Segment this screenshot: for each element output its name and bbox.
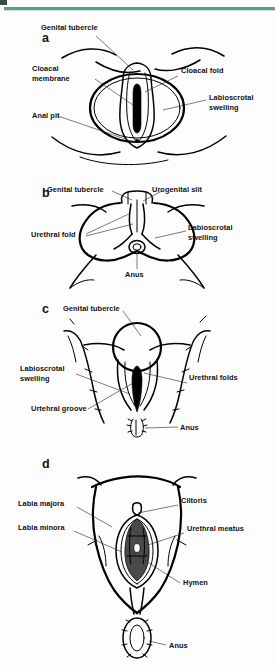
panel-d-clitoris <box>133 503 142 515</box>
panel-a-right-buttock <box>158 136 226 155</box>
panel-c-tick-r4 <box>173 409 179 410</box>
panel-b-right-foot <box>180 280 204 288</box>
panel-b-label-labioscrotal-line1: Labioscrotal <box>188 223 233 232</box>
panel-b-urethral-fold-left <box>129 204 132 234</box>
panel-d-label-labia-minora: Labia minora <box>18 523 65 532</box>
panel-c-label-anus: Anus <box>180 423 199 432</box>
panel-b-label-urogenital-slit: Urogenital slit <box>152 185 203 194</box>
panel-b-left-leg <box>70 255 96 288</box>
panel-a-label-anal-pit: Anal pit <box>32 111 60 120</box>
panel-d-anus-outer <box>123 618 151 658</box>
panel-a-right-thigh <box>172 48 224 56</box>
panel-a-cloacal-membrane-slit <box>133 84 141 133</box>
panel-b: b <box>31 185 233 288</box>
panel-d-anus-ridge-6 <box>147 630 152 631</box>
panel-b-left-foot <box>70 280 94 288</box>
panel-d-label-hymen: Hymen <box>183 578 208 587</box>
panel-c: c <box>20 302 238 437</box>
panel-d-label-labia-majora: Labia majora <box>18 499 65 508</box>
panel-c-anus-outline <box>131 419 144 437</box>
panel-d-anus-ridge-7 <box>147 644 152 645</box>
anatomical-figure: a <box>0 0 275 669</box>
panel-c-label-urethral-folds: Urethral folds <box>189 373 238 382</box>
panel-d-letter: d <box>42 457 50 471</box>
panel-a-label-cloacal-membrane-line1: Cloacal <box>32 64 59 73</box>
panel-c-label-labioscrotal-line1: Labioscrotal <box>20 364 65 373</box>
panel-a-left-buttock <box>52 137 120 155</box>
panel-c-right-wrinkle-a <box>198 336 206 362</box>
panel-d-label-clitoris: Clitoris <box>181 496 207 505</box>
panel-c-perineal-right <box>150 344 190 350</box>
panel-d: d <box>18 457 244 658</box>
panel-d-urethral-meatus <box>134 544 140 553</box>
panel-b-urethral-fold-right <box>142 204 145 234</box>
panel-a-letter: a <box>42 31 50 45</box>
panel-d-leader-clitoris <box>138 505 178 513</box>
panel-a-label-labioscrotal-line1: Labioscrotal <box>209 93 254 102</box>
panel-d-anus-ridge-2 <box>122 630 127 631</box>
panel-b-label-anus: Anus <box>125 270 144 279</box>
panel-d-anus-inner <box>130 625 144 651</box>
panel-c-letter: c <box>42 302 49 316</box>
panel-b-label-urethral-fold: Urethral fold <box>31 230 76 239</box>
panel-a-anal-pit-dot <box>135 139 139 143</box>
panel-c-leader-urethral-folds <box>144 373 187 383</box>
panel-c-tick-l4 <box>95 409 101 410</box>
panel-c-left-wrinkle-a <box>68 336 76 362</box>
panel-c-anus-ridge-4 <box>142 419 146 421</box>
panel-a-left-thigh <box>62 49 116 58</box>
panel-d-mons-pubis <box>92 476 180 487</box>
panel-c-label-urethral-groove: Urtehral groove <box>31 404 87 413</box>
panel-b-label-labioscrotal-line2: swelling <box>188 233 218 242</box>
panel-a: a <box>32 23 254 165</box>
panel-c-tick-l-top <box>70 319 74 324</box>
panel-b-right-leg <box>178 255 204 288</box>
panel-c-label-labioscrotal-line2: swelling <box>20 374 50 383</box>
panel-c-label-genital-tubercle: Genital tubercle <box>63 304 120 313</box>
panel-b-leader-urethral-fold-a <box>86 213 131 234</box>
panel-d-label-urethral-meatus: Urethral meatus <box>187 524 244 533</box>
panel-b-leader-labioscrotal <box>155 231 186 238</box>
figure-page: a <box>0 0 275 669</box>
panel-b-label-genital-tubercle: Genital tubercle <box>47 185 104 194</box>
panel-a-label-labioscrotal-line2: swelling <box>209 103 239 112</box>
panel-d-label-anus: Anus <box>169 641 188 650</box>
panel-d-leader-labia-majora <box>77 507 112 527</box>
panel-a-label-cloacal-fold: Cloacal fold <box>181 66 224 75</box>
panel-d-leader-anus <box>149 641 166 645</box>
panel-c-anus-ridge-1 <box>128 419 132 421</box>
panel-b-leader-urethral-fold-b <box>86 224 133 236</box>
panel-a-leader-anal-pit <box>58 116 134 142</box>
panel-c-perineal-left <box>84 344 124 350</box>
panel-a-lower-fold <box>80 157 168 165</box>
panel-d-anus-ridge-3 <box>122 644 127 645</box>
panel-c-tick-r-top <box>200 316 206 322</box>
panel-b-anus-inner <box>133 244 141 250</box>
panel-a-label-genital-tubercle: Genital tubercle <box>41 23 98 32</box>
panel-c-leader-labioscrotal <box>76 374 130 394</box>
panel-c-leader-anus <box>145 427 178 428</box>
panel-a-label-cloacal-membrane-line2: membrane <box>32 74 70 83</box>
